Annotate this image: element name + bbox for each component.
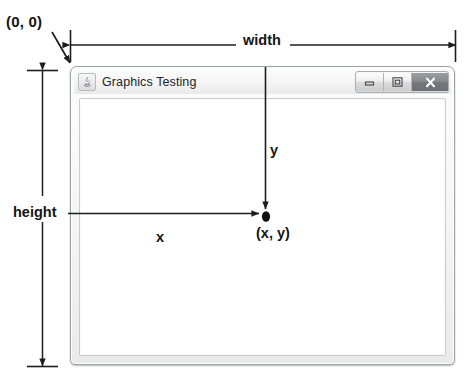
application-window[interactable]: Graphics Testing (70, 66, 455, 365)
window-title-text: Graphics Testing (102, 75, 196, 89)
x-axis-label: x (156, 230, 164, 245)
window-title-bar[interactable]: Graphics Testing (74, 70, 451, 94)
xy-coordinate-label: (x, y) (256, 226, 290, 241)
maximize-button[interactable] (384, 73, 412, 91)
y-axis-label: y (270, 143, 278, 158)
java-coffee-cup-icon (78, 73, 96, 91)
origin-leader-arrow (52, 32, 70, 63)
width-label: width (243, 33, 281, 48)
minimize-button[interactable] (356, 73, 384, 91)
window-controls-group (355, 71, 449, 93)
diagram-canvas: Graphics Testing (0, 0, 470, 384)
height-label: height (13, 205, 57, 220)
origin-label: (0, 0) (6, 14, 42, 29)
close-button[interactable] (412, 73, 448, 91)
